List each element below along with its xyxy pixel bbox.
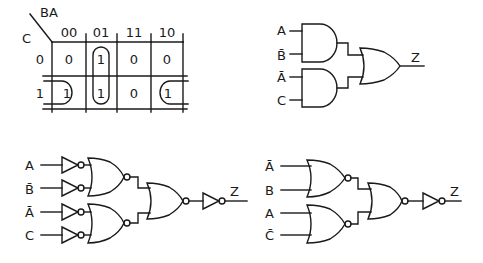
nor-inverter-circuit: A B̄ Ā C xyxy=(25,157,247,243)
nor-gate xyxy=(88,158,130,196)
kmap-cell: 0 xyxy=(163,52,171,67)
input-label: C̄ xyxy=(265,228,274,243)
kmap-row-var: C xyxy=(22,31,31,46)
kmap-cell: 0 xyxy=(65,52,73,67)
kmap-row-header: 0 xyxy=(36,52,44,67)
or-gate xyxy=(360,48,400,84)
output-label: Z xyxy=(450,184,459,199)
not-gate xyxy=(423,193,445,209)
input-label: C xyxy=(277,93,286,108)
and-gate xyxy=(302,24,337,62)
kmap-cell: 0 xyxy=(130,86,138,101)
logic-diagram: BA C 00 01 11 10 0 1 0 1 0 0 1 1 0 1 xyxy=(0,0,483,263)
input-label: B̄ xyxy=(277,48,286,63)
kmap-col-header: 11 xyxy=(126,25,143,40)
kmap-cell: 1 xyxy=(97,86,105,101)
not-gate xyxy=(62,157,84,173)
and-gate xyxy=(302,69,337,107)
input-label: B xyxy=(265,183,274,198)
not-gate xyxy=(62,180,84,196)
kmap-col-header: 10 xyxy=(159,25,176,40)
karnaugh-map: BA C 00 01 11 10 0 1 0 1 0 0 1 1 0 1 xyxy=(22,5,188,112)
input-label: Ā xyxy=(25,205,34,220)
nor-circuit: Ā B A C̄ Z xyxy=(265,159,461,243)
kmap-cell: 1 xyxy=(97,52,105,67)
nor-gate xyxy=(88,204,130,243)
input-label: Ā xyxy=(277,70,286,85)
kmap-col-header: 01 xyxy=(93,25,110,40)
kmap-row-header: 1 xyxy=(36,86,44,101)
nor-gate xyxy=(307,160,351,197)
kmap-cell: 1 xyxy=(164,86,172,101)
input-label: Ā xyxy=(265,159,274,174)
and-or-circuit: A B̄ Ā C Z xyxy=(277,23,424,108)
input-label: A xyxy=(25,158,34,173)
not-gate xyxy=(62,204,84,220)
not-gate xyxy=(203,193,225,209)
input-label: A xyxy=(277,23,286,38)
kmap-col-vars: BA xyxy=(40,5,58,20)
nor-gate xyxy=(368,183,408,219)
input-label: A xyxy=(265,206,274,221)
kmap-col-header: 00 xyxy=(61,25,78,40)
not-gate xyxy=(62,227,84,243)
nor-gate xyxy=(307,205,351,243)
input-label: C xyxy=(25,228,34,243)
kmap-cell: 0 xyxy=(130,52,138,67)
output-label: Z xyxy=(411,50,420,65)
nor-gate xyxy=(147,183,189,219)
input-label: B̄ xyxy=(25,182,34,197)
output-label: Z xyxy=(230,184,239,199)
